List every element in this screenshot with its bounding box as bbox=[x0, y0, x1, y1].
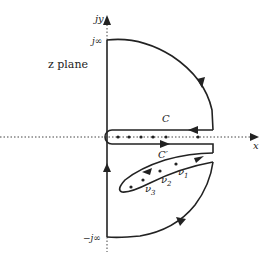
contour-cprime-label: C′ bbox=[158, 150, 168, 160]
contour-diagram: z plane jy j∞ −j∞ x C C′ ν1 ν2 ν3 bbox=[0, 0, 275, 261]
contour-c-label: C bbox=[162, 114, 170, 124]
imag-top-label: j∞ bbox=[92, 37, 102, 46]
pole-v2-label: ν2 bbox=[161, 175, 172, 188]
y-axis-label: jy bbox=[95, 14, 104, 24]
arrow-cprime-upper-icon bbox=[194, 156, 204, 163]
x-axis-label: x bbox=[253, 141, 259, 151]
pole-v3-label: ν3 bbox=[145, 184, 156, 197]
imag-bottom-label: −j∞ bbox=[83, 234, 101, 243]
outer-arc bbox=[105, 39, 213, 237]
arrow-up-icon bbox=[103, 163, 111, 172]
arrow-c-lower-icon bbox=[160, 140, 170, 148]
plane-label: z plane bbox=[48, 59, 88, 70]
arrow-c-upper-icon bbox=[188, 126, 198, 134]
pole-v1-label: ν1 bbox=[178, 167, 189, 180]
arrow-arc-top-icon bbox=[197, 77, 205, 88]
contour-drawing bbox=[0, 0, 275, 261]
